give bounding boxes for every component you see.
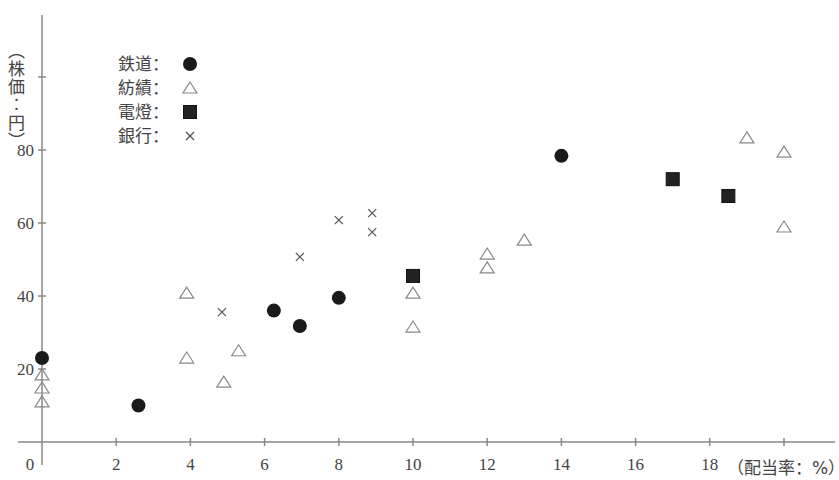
x-tick-label: 18 (701, 455, 718, 474)
x-marker-icon (218, 308, 226, 316)
circle-marker-icon (35, 351, 49, 365)
triangle-marker-icon (180, 287, 194, 298)
circle-marker-icon (332, 291, 346, 305)
x-tick-label: 16 (627, 455, 644, 474)
triangle-marker-icon (480, 248, 494, 259)
triangle-marker-icon (740, 132, 754, 143)
triangle-marker-icon (777, 146, 791, 157)
triangle-marker-icon (232, 345, 246, 356)
x-marker-icon (335, 216, 343, 224)
triangle-marker-icon (517, 234, 531, 245)
x-tick-label: 2 (112, 455, 121, 474)
x-tick-label: 8 (335, 455, 344, 474)
square-marker-icon (722, 189, 735, 202)
x-tick-label: 0 (26, 455, 35, 474)
legend-label: 電燈： (118, 102, 169, 122)
legend-label: 紡績： (118, 78, 169, 98)
circle-marker-icon (293, 319, 307, 333)
legend-label: 銀行： (118, 126, 169, 146)
y-tick-label: 20 (17, 360, 34, 379)
triangle-marker-icon (777, 221, 791, 232)
x-tick-label: 6 (260, 455, 269, 474)
x-marker-icon (296, 253, 304, 261)
triangle-marker-icon (480, 262, 494, 273)
x-axis-label: （配当率：%） (727, 454, 839, 479)
circle-marker-icon (131, 399, 145, 413)
square-marker-icon (407, 269, 420, 282)
triangle-marker-icon (406, 321, 420, 332)
data-points (35, 132, 791, 413)
square-marker-icon (666, 173, 679, 186)
scatter-chart: 02468101214161820406080 鉄道：紡績：電燈：銀行： (0, 0, 839, 480)
y-tick-label: 60 (17, 214, 34, 233)
x-tick-label: 10 (405, 455, 422, 474)
x-marker-icon (368, 228, 376, 236)
x-marker-icon (368, 209, 376, 217)
triangle-marker-icon (183, 82, 197, 93)
circle-marker-icon (267, 304, 281, 318)
triangle-marker-icon (180, 352, 194, 363)
circle-marker-icon (183, 57, 197, 71)
legend-label: 鉄道： (118, 54, 169, 74)
x-marker-icon (186, 132, 194, 140)
x-tick-label: 12 (479, 455, 496, 474)
x-tick-label: 14 (553, 455, 571, 474)
circle-marker-icon (554, 149, 568, 163)
x-tick-label: 4 (186, 455, 195, 474)
triangle-marker-icon (217, 376, 231, 387)
y-tick-label: 40 (17, 287, 34, 306)
y-axis-label: ︵株価︰円︶ (6, 42, 26, 150)
square-marker-icon (184, 106, 197, 119)
triangle-marker-icon (406, 287, 420, 298)
legend: 鉄道：紡績：電燈：銀行： (118, 54, 197, 146)
